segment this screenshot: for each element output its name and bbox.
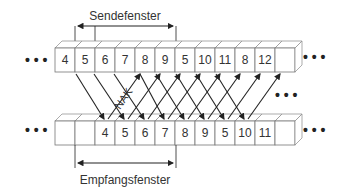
receiver-buffer-cell-value: 5 [222, 126, 229, 140]
receiver-buffer-cell-value: 4 [102, 126, 109, 140]
receiver-buffer-cell-value: 11 [259, 126, 272, 140]
ellipsis-top-left: • • • [25, 52, 48, 68]
selective-repeat-diagram: Sendefenster 45678951011812 45678951011 … [0, 0, 354, 193]
receiver-window-label: Empfangsfenster [80, 173, 171, 187]
ellipsis-top-right: • • • [303, 49, 326, 65]
sender-buffer-cell-value: 7 [122, 53, 129, 67]
ellipsis-bottom-left: • • • [25, 122, 48, 138]
receiver-buffer-cell-value: 6 [142, 126, 149, 140]
sender-buffer-cell-value: 5 [182, 53, 189, 67]
sender-buffer-cell-value: 12 [258, 53, 272, 67]
ellipsis-middle-right: • • • [275, 87, 298, 103]
receiver-buffer-row: 45678951011 [55, 114, 302, 145]
receiver-buffer-cell-value: 8 [182, 126, 189, 140]
ack-arrows [108, 74, 280, 119]
sender-buffer-cell-value: 8 [242, 53, 249, 67]
receiver-buffer-cell-value: 9 [202, 126, 209, 140]
sender-buffer-cell-value: 9 [162, 53, 169, 67]
sender-buffer-row: 45678951011812 [55, 41, 302, 72]
receiver-window-indicator: Empfangsfenster [75, 145, 176, 187]
nak-label: NAK [112, 85, 135, 111]
receiver-buffer-cell-value: 7 [162, 126, 169, 140]
ellipsis-bottom-right: • • • [303, 122, 326, 138]
sender-buffer-cell-value: 8 [142, 53, 149, 67]
sender-buffer-cell-value: 10 [198, 53, 212, 67]
sender-buffer-cell-value: 11 [219, 53, 232, 67]
receiver-buffer-cell-value: 10 [238, 126, 252, 140]
receiver-buffer-cell-value: 5 [122, 126, 129, 140]
sender-buffer-cell-value: 5 [82, 53, 89, 67]
sender-buffer-cell-value: 6 [102, 53, 109, 67]
sender-buffer-cell-value: 4 [62, 53, 69, 67]
data-frame-arrows [76, 74, 244, 119]
sender-window-label: Sendefenster [89, 9, 160, 23]
